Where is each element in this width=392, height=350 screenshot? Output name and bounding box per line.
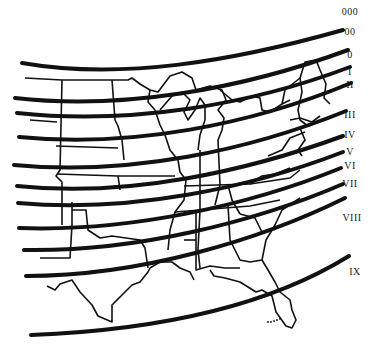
zone-label: III: [335, 109, 365, 120]
zone-label: VI: [335, 160, 365, 171]
zone-label: 0: [335, 49, 365, 60]
zone-label: 00: [335, 26, 365, 37]
zone-label: 000: [335, 6, 365, 17]
zone-boundary-line: [22, 30, 343, 70]
zone-label: V: [335, 146, 365, 157]
zone-label: I: [335, 66, 365, 77]
zone-boundary-line: [15, 50, 348, 101]
zone-label: IX: [340, 266, 370, 277]
us-zone-map: [0, 0, 392, 350]
zone-label: VII: [335, 178, 365, 189]
zone-boundary-line: [31, 256, 349, 335]
zone-label: IV: [335, 129, 365, 140]
zone-label: II: [335, 79, 365, 90]
zone-label: VIII: [337, 212, 367, 223]
zone-boundary-line: [17, 136, 343, 189]
florida-keys: [267, 318, 281, 323]
